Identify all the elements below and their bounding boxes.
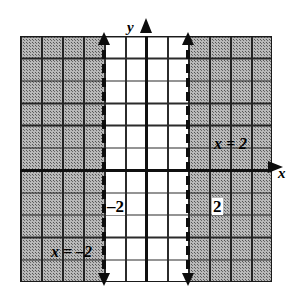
y-axis-arrow-icon (140, 18, 152, 33)
x-tick-label-negative: –2 (106, 198, 125, 215)
y-axis-label: y (127, 20, 134, 35)
x-tick-label-positive: 2 (212, 198, 223, 215)
x-axis-label: x (278, 166, 286, 181)
arrow-down-icon-left (98, 273, 110, 286)
boundary-line-x-pos2 (186, 36, 190, 282)
graph-figure: –2 2 x = 2 x = –2 y x (0, 0, 294, 306)
arrow-down-icon-right (182, 273, 194, 286)
arrow-up-icon-left (98, 32, 110, 45)
plot-area: –2 2 x = 2 x = –2 (20, 36, 272, 282)
arrow-up-icon-right (182, 32, 194, 45)
boundary-line-x-neg2 (102, 36, 106, 282)
y-axis-line (145, 36, 148, 282)
equation-label-x-equals-neg2: x = –2 (50, 244, 93, 260)
equation-label-x-equals-2: x = 2 (213, 136, 248, 152)
